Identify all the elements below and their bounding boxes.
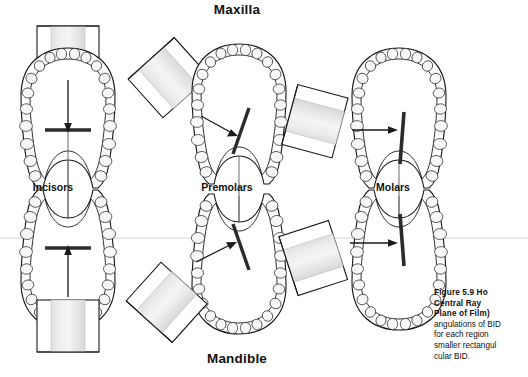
figure-5-9-illustration: Maxilla Mandible Incisors Premolars Mola… — [0, 0, 528, 377]
heading-maxilla: Maxilla — [167, 2, 307, 17]
panel-mandible-premolars — [126, 194, 287, 342]
bid-mandible-incisors — [37, 300, 99, 352]
bid-mandible-molars — [279, 221, 348, 296]
caption-body-line-4: cular BID. — [434, 352, 528, 363]
group-label-incisors: Incisors — [0, 181, 108, 193]
bid-maxilla-molars — [282, 85, 348, 158]
caption-heading-line-3: Plane of Film) — [434, 309, 528, 320]
caption-body-line-1: angulations of BID — [434, 320, 528, 331]
heading-mandible: Mandible — [167, 351, 307, 366]
group-label-premolars: Premolars — [172, 181, 282, 193]
panel-mandible-molars — [279, 190, 448, 330]
caption-heading-line-1: Figure 5.9 Ho — [434, 288, 528, 299]
group-label-molars: Molars — [338, 181, 448, 193]
caption-body-line-3: smaller rectangul — [434, 341, 528, 352]
caption-body-line-2: for each region — [434, 330, 528, 341]
caption-heading-line-2: Central Ray — [434, 299, 528, 310]
figure-caption: Figure 5.9 Ho Central Ray Plane of Film)… — [434, 288, 528, 362]
